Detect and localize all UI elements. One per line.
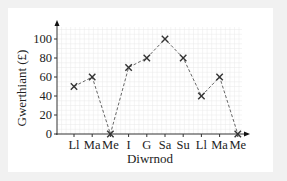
y-tick-label: 60 bbox=[40, 70, 53, 84]
x-axis-ticks: LlMaMeIGSaSuLlMaMe bbox=[68, 134, 246, 152]
x-tick-label: Su bbox=[177, 138, 191, 152]
x-tick-label: Sa bbox=[159, 138, 172, 152]
x-tick-label: Me bbox=[102, 138, 119, 152]
y-tick-label: 80 bbox=[40, 51, 53, 65]
y-tick-label: 40 bbox=[40, 89, 53, 103]
x-tick-label: I bbox=[127, 138, 131, 152]
y-tick-label: 100 bbox=[33, 32, 52, 46]
line-chart: 020406080100 LlMaMeIGSaSuLlMaMe Diwrnod … bbox=[0, 0, 287, 181]
x-tick-label: G bbox=[142, 138, 151, 152]
y-tick-label: 20 bbox=[40, 108, 53, 122]
x-tick-label: Ll bbox=[68, 138, 80, 152]
y-tick-label: 0 bbox=[46, 127, 52, 141]
x-tick-label: Ma bbox=[84, 138, 101, 152]
x-tick-label: Ma bbox=[211, 138, 228, 152]
x-axis-title: Diwrnod bbox=[127, 151, 174, 166]
y-axis-title: Gwerthiant (£) bbox=[14, 50, 29, 127]
y-axis-ticks: 020406080100 bbox=[33, 32, 57, 141]
x-tick-label: Ll bbox=[196, 138, 208, 152]
x-tick-label: Me bbox=[229, 138, 246, 152]
